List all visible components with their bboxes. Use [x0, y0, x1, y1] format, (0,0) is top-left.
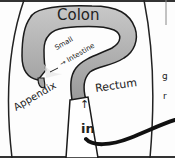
partial-text-1: g [162, 72, 168, 81]
colon-diagram: Colon Small → Intestine Rectum Appendix … [0, 0, 175, 158]
partial-text-2: r [163, 92, 167, 101]
body-outline-left [8, 0, 24, 158]
small-intestine-arrow [50, 68, 58, 72]
up-arrow-icon: ↑ [80, 99, 89, 110]
body-outline-right [144, 0, 153, 158]
probe-line [86, 120, 175, 144]
colon-label: Colon [57, 8, 100, 23]
in-label: in [81, 122, 95, 135]
